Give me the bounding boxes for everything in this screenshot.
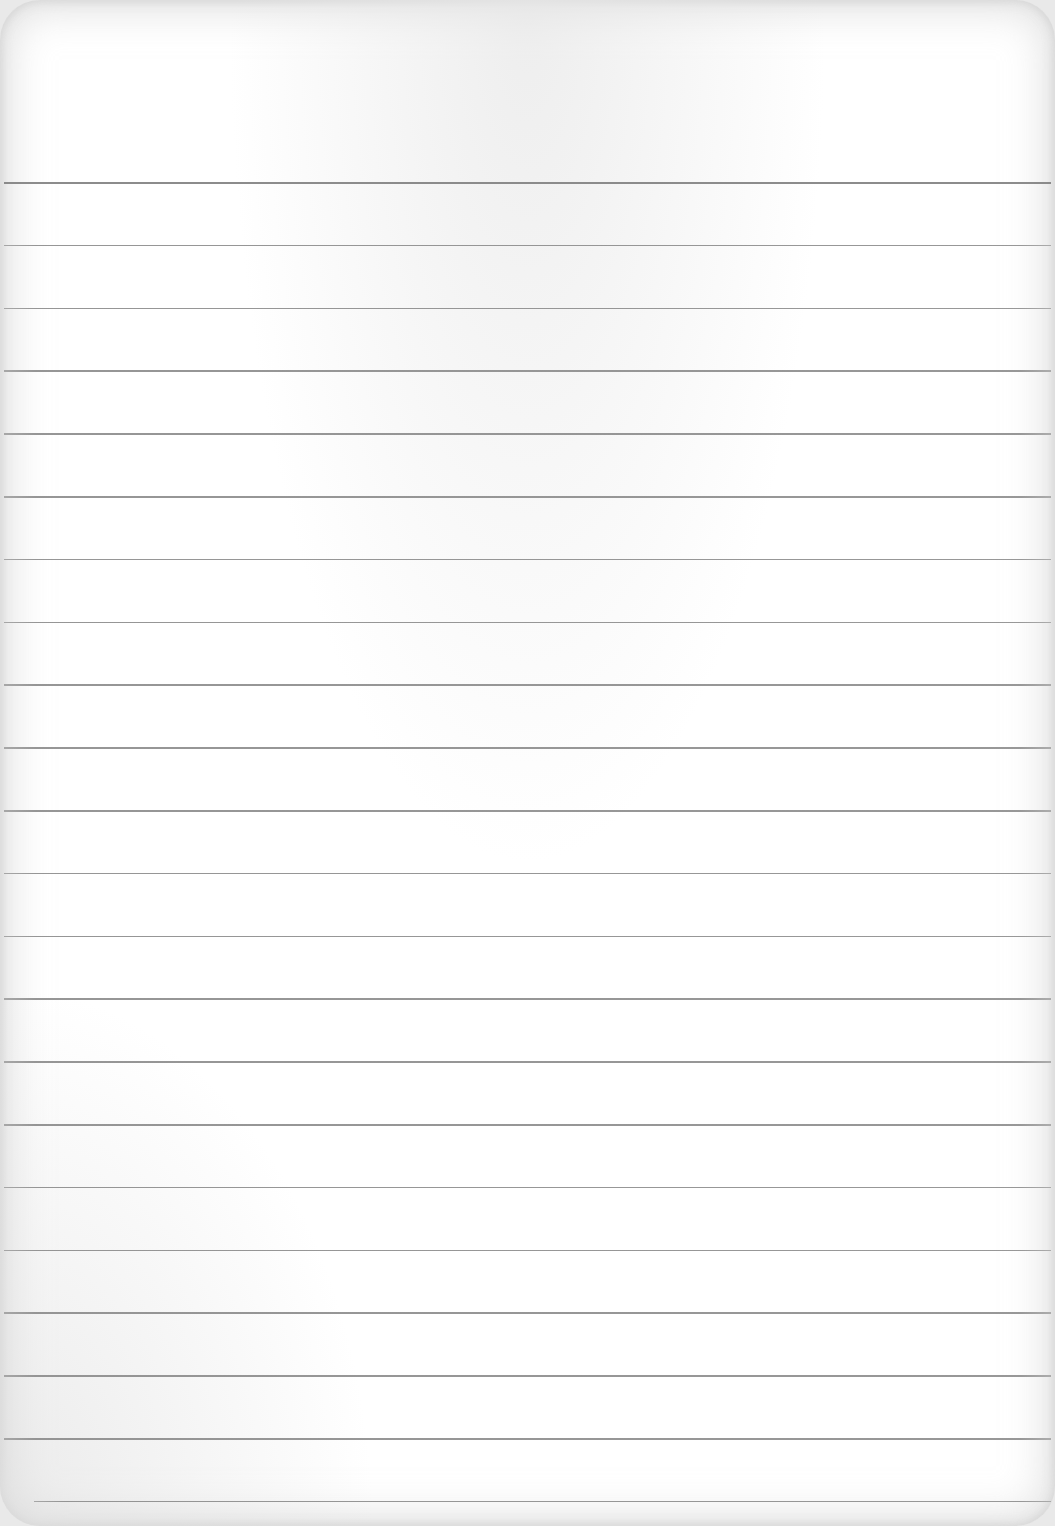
ruled-line (4, 622, 1051, 624)
ruled-line (4, 308, 1051, 310)
ruled-line (4, 936, 1051, 938)
ruled-line (4, 496, 1051, 498)
ruled-line (4, 1187, 1051, 1189)
ruled-line (4, 1124, 1051, 1126)
ruled-line (4, 1061, 1051, 1063)
ruled-line (4, 684, 1051, 686)
ruled-line (4, 433, 1051, 435)
ruled-line (4, 1312, 1051, 1314)
ruled-line (4, 1375, 1051, 1377)
ruled-line (4, 998, 1051, 1000)
ruled-line (4, 1438, 1051, 1440)
ruled-line (4, 245, 1051, 247)
ruled-line (4, 810, 1051, 812)
ruled-line (4, 370, 1051, 372)
ruled-line (34, 1501, 1051, 1503)
ruled-line (4, 559, 1051, 561)
ruled-line (4, 1250, 1051, 1252)
ruled-line (4, 747, 1051, 749)
ruled-paper-sheet (0, 0, 1055, 1526)
ruled-line (4, 182, 1051, 184)
ruled-line (4, 873, 1051, 875)
